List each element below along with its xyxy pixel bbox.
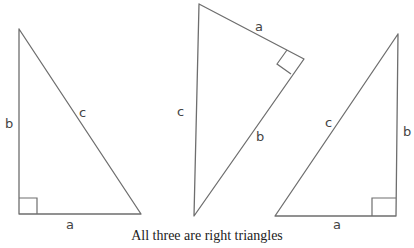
side-label-b: b — [256, 129, 264, 144]
right-angle-marker — [372, 198, 396, 216]
right-angle-marker — [277, 50, 291, 74]
triangle-left: a b c — [5, 29, 141, 232]
side-label-a: a — [255, 19, 263, 34]
right-angle-marker — [19, 198, 37, 214]
triangle-middle: a b c — [177, 4, 304, 216]
side-label-b: b — [403, 124, 411, 139]
side-label-c: c — [79, 105, 86, 120]
side-label-c: c — [177, 104, 184, 119]
right-triangles-diagram: a b c a b c a b c — [0, 0, 414, 248]
side-label-b: b — [5, 116, 13, 131]
diagram-caption: All three are right triangles — [0, 228, 414, 244]
triangle-right: a b c — [275, 34, 411, 232]
side-label-c: c — [325, 115, 332, 130]
